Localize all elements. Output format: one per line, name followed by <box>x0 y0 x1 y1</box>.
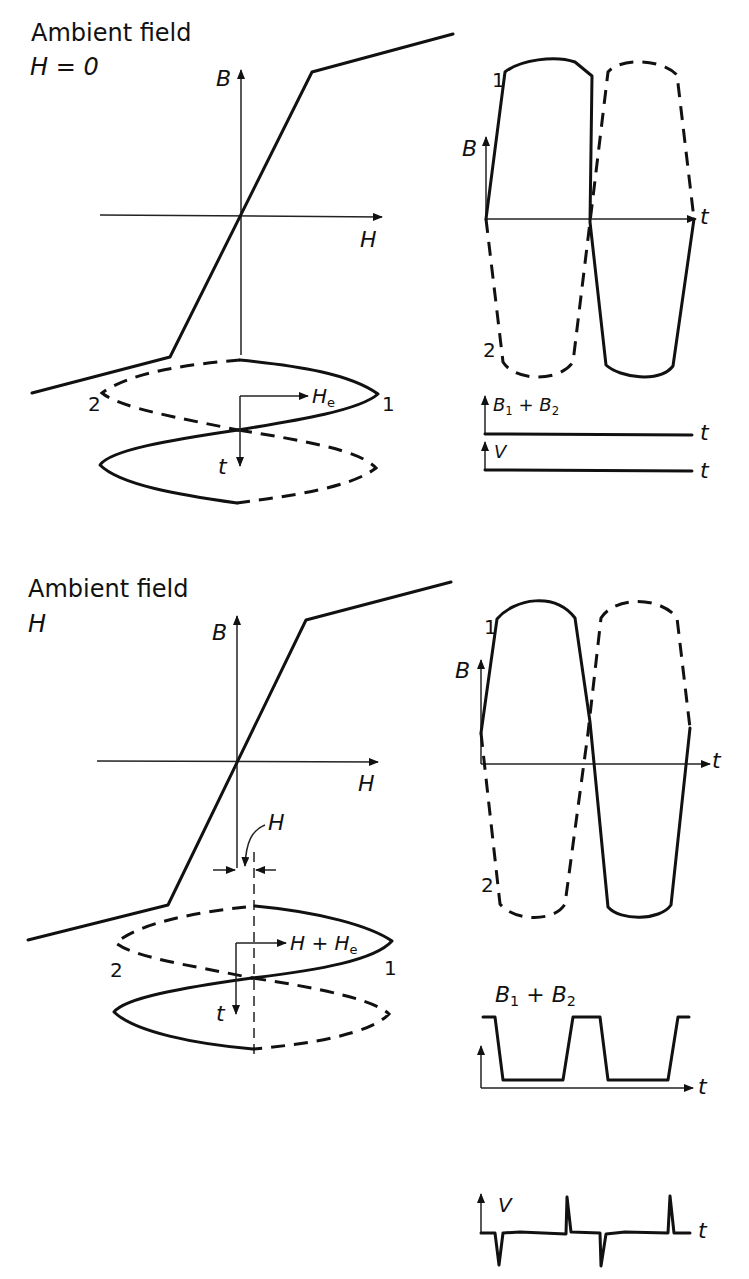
panel-2-v-label: V <box>498 1195 512 1215</box>
panel-2-voltage-waveform <box>481 1194 690 1266</box>
panel-2-bh-curve <box>28 582 451 1058</box>
panel-2-title: Ambient field <box>28 577 189 601</box>
panel-1-flux-core2-label: 2 <box>483 340 496 360</box>
voltage-flat-line <box>485 470 692 471</box>
panel-2-flux-t-label: t <box>712 750 721 772</box>
panel-2-sum-waveform <box>481 1017 693 1088</box>
panel-2-b-axis-label: B <box>212 622 227 644</box>
voltage-spike-line <box>481 1196 690 1266</box>
core2-drive-lower <box>237 430 376 503</box>
sum-pulse-line <box>483 1017 689 1080</box>
panel-2-sum-label: B1 + B2 <box>495 984 576 1009</box>
core1-drive-upper <box>238 360 378 430</box>
panel-2-flux-waveform <box>481 601 710 918</box>
panel-1-h-axis-label: H <box>360 229 377 251</box>
panel-1-he-label: He <box>312 386 335 409</box>
panel-1-bh-curve <box>32 34 453 393</box>
core2-drive-lower <box>252 978 389 1049</box>
panel-2-v-t-label: t <box>698 1220 707 1242</box>
panel-1-flux-waveform <box>486 59 696 377</box>
panel-2-offset-h-label: H <box>268 812 285 834</box>
panel-1-sum-label: B1 + B2 <box>493 396 559 417</box>
panel-2-core1-label: 1 <box>384 958 397 978</box>
panel-1-b-axis-label: B <box>216 68 231 90</box>
panel-1-flux-b-label: B <box>462 138 477 160</box>
panel-1-flux-core1-label: 1 <box>492 70 505 90</box>
panel-1-core2-label: 2 <box>88 394 101 414</box>
core2-flux-curve <box>481 602 690 918</box>
panel-1-title: Ambient field <box>31 21 192 45</box>
offset-pointer-icon <box>245 825 265 866</box>
panel-2-subtitle: H <box>28 612 46 636</box>
panel-1-flux-t-label: t <box>700 206 709 228</box>
panel-1-drive-t-label: t <box>218 456 227 478</box>
panel-1-subtitle: H = 0 <box>30 55 99 79</box>
bh-curve-line <box>32 34 453 393</box>
panel-1-voltage-waveform <box>485 442 692 471</box>
panel-2-flux-core1-label: 1 <box>484 617 497 637</box>
core2-drive-upper <box>116 907 252 978</box>
panel-2-core2-label: 2 <box>110 960 123 980</box>
sum-flat-line <box>485 434 692 435</box>
panel-1-v-t-label: t <box>700 460 709 482</box>
panel-2-drive-field <box>114 906 392 1049</box>
panel-1-drive-field <box>100 360 378 503</box>
panel-1-sum-t-label: t <box>700 422 709 444</box>
core1-drive-lower <box>114 978 253 1049</box>
panel-2-h-axis-label: H <box>358 773 375 795</box>
panel-2-flux-b-label: B <box>455 660 470 682</box>
panel-2-drive-t-label: t <box>216 1003 225 1025</box>
panel-1-v-label: V <box>494 443 506 461</box>
fluxgate-diagram <box>0 0 749 1279</box>
panel-2-sum-t-label: t <box>698 1076 707 1098</box>
panel-2-h-plus-he-label: H + He <box>290 933 358 956</box>
panel-2-flux-core2-label: 2 <box>481 875 494 895</box>
panel-1-core1-label: 1 <box>382 394 395 414</box>
